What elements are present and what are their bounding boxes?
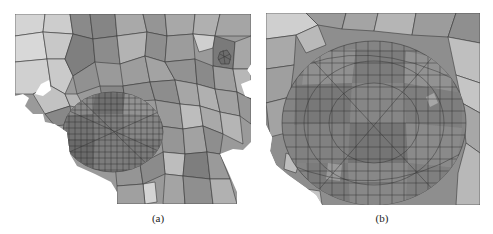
map-panel-a — [15, 14, 251, 204]
caption-b: (b) — [367, 212, 397, 224]
map-panel-b — [266, 13, 480, 205]
choropleth-map-b — [266, 13, 480, 205]
caption-a: (a) — [143, 212, 173, 224]
choropleth-map-a — [15, 14, 251, 204]
